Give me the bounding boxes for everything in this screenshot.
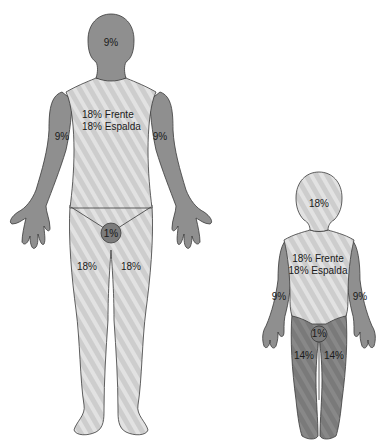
child-torso-front-label: 18% Frente [292, 253, 344, 264]
child-arm-left-label: 9% [272, 291, 287, 302]
adult-arm-left-label: 9% [55, 131, 70, 142]
child-head-label: 18% [309, 198, 329, 209]
adult-torso-front-label: 18% Frente [82, 109, 134, 120]
child-leg-right-label: 14% [324, 350, 344, 361]
rule-of-nines-diagram: 9% 18% Frente 18% Espalda 9% 9% 1% 18% 1… [0, 0, 386, 446]
adult-perineum-label: 1% [104, 228, 119, 239]
adult-torso-back-label: 18% Espalda [82, 121, 141, 132]
child-perineum-label: 1% [312, 328, 327, 339]
adult-figure [10, 14, 211, 435]
adult-leg-right-label: 18% [121, 261, 141, 272]
adult-arm-right [150, 92, 212, 248]
adult-arm-right-label: 9% [153, 131, 168, 142]
child-torso [284, 230, 354, 324]
child-figure [263, 172, 376, 439]
adult-arm-left [10, 92, 72, 248]
child-arm-right-label: 9% [353, 291, 368, 302]
child-torso-back-label: 18% Espalda [289, 265, 348, 276]
adult-torso [66, 78, 156, 208]
adult-leg-left-label: 18% [77, 261, 97, 272]
child-leg-left-label: 14% [294, 350, 314, 361]
adult-head-label: 9% [104, 37, 119, 48]
